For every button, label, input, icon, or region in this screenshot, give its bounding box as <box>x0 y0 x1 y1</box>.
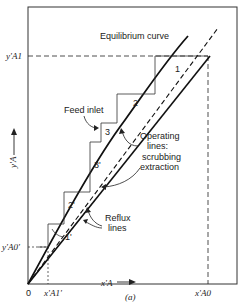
figure-caption: (a) <box>125 292 136 302</box>
reflux-lines-label-1: Reflux <box>105 213 131 223</box>
stage-label-1: 1 <box>175 64 180 74</box>
y-axis-label: y'A <box>8 156 18 169</box>
reflux-lines-label-2: lines <box>108 223 127 233</box>
operating-lines-label-2: lines: <box>147 141 168 151</box>
extraction-operating-line <box>28 28 218 284</box>
x-tick-x-a1: x'A1' <box>43 288 63 298</box>
stage-label-3p: 3' <box>94 160 101 170</box>
operating-lines-arrowhead-upper <box>119 128 125 134</box>
reflux-leader-upper <box>88 210 102 226</box>
operating-lines-label-3: scrubbing <box>142 152 181 162</box>
stage-label-2p: 2' <box>68 200 75 210</box>
feed-inlet-arrowhead <box>94 125 99 131</box>
y-tick-y-a1: y'A1 <box>5 51 22 61</box>
operating-lines-label-1: Operating <box>140 131 180 141</box>
scrubbing-operating-line <box>28 56 210 284</box>
operating-lines-leader-lower <box>104 168 140 187</box>
x-tick-x-a0: x'A0 <box>194 288 211 298</box>
stage-steps-upper <box>101 56 208 142</box>
y-axis-arrowhead <box>11 128 17 135</box>
equilibrium-curve-label: Equilibrium curve <box>100 31 169 41</box>
x-axis-label: x'A <box>100 278 113 288</box>
stage-label-2: 2 <box>133 98 138 108</box>
origin-label: 0 <box>26 288 31 298</box>
extraction-mccabe-thiele-diagram: 1 2 3 3' 2' 1' Equilibrium curve Feed in… <box>0 0 242 304</box>
operating-lines-label-4: extraction <box>140 162 179 172</box>
stage-label-3: 3 <box>105 127 110 137</box>
reflux-arrowhead-lower <box>83 219 88 224</box>
feed-inlet-label: Feed inlet <box>64 105 104 115</box>
y-tick-y-a0: y'A0' <box>1 242 21 252</box>
stage-label-1p: 1' <box>65 232 72 242</box>
